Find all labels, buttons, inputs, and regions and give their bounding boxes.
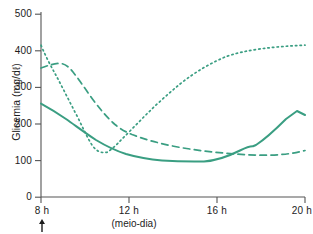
chart-plot-area xyxy=(0,0,313,234)
axis-lines xyxy=(41,12,305,197)
x-tick-label-8h: 8 h xyxy=(22,205,62,216)
y-tick-label-500: 500 xyxy=(2,8,32,19)
x-tick-label-12h: 12 h xyxy=(109,205,149,216)
x-axis-sublabel: (meio-dia) xyxy=(104,218,164,229)
series-solid-curve xyxy=(41,104,305,162)
y-tick-label-0: 0 xyxy=(2,191,32,202)
series-dotted-curve xyxy=(41,45,305,152)
y-axis-ticks xyxy=(35,14,41,197)
glicemia-line-chart: 500 400 300 200 100 0 8 h 12 h 16 h 20 h… xyxy=(0,0,313,234)
x-tick-label-16h: 16 h xyxy=(197,205,237,216)
start-time-arrow-icon xyxy=(36,219,48,233)
y-axis-title: Glicemia (mg/dℓ) xyxy=(10,42,22,162)
series-dashed-curve xyxy=(41,63,305,155)
x-tick-label-20h: 20 h xyxy=(282,205,313,216)
x-axis-ticks xyxy=(41,197,305,203)
chart-series xyxy=(41,45,305,161)
